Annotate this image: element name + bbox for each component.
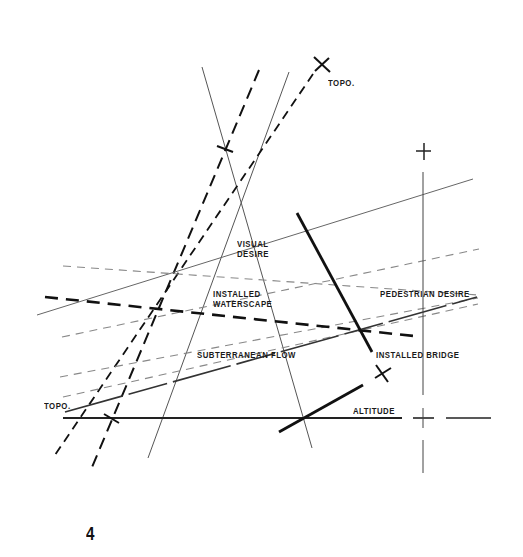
x-marker-topo [314, 57, 330, 72]
installed-bridge-line [297, 213, 372, 352]
label-visual-desire: VISUAL DESIRE [237, 239, 269, 259]
cross-marker-top [416, 143, 431, 160]
label-topo-left: TOPO. [44, 401, 71, 411]
label-pedestrian-desire: PEDESTRIAN DESIRE [380, 289, 470, 299]
label-installed-bridge: INSTALLED BRIDGE [376, 350, 459, 360]
label-altitude: ALTITUDE [353, 406, 395, 416]
site-forces-diagram [0, 0, 523, 557]
label-topo-top: TOPO. [328, 78, 355, 88]
label-installed-waterscape: INSTALLED WATERSCAPE [213, 289, 272, 309]
thin-axis-line-b [148, 72, 289, 458]
figure-number: 4 [86, 523, 94, 545]
bridge-crossing-line [279, 385, 363, 432]
heavy-dashed-diagonal-left [90, 70, 259, 472]
label-subterranean-flow: SUBTERRANEAN FLOW [197, 350, 296, 360]
grey-dashed-line-3 [60, 298, 478, 377]
topo-dashed-line [55, 74, 313, 455]
x-marker-bridge [375, 365, 391, 382]
